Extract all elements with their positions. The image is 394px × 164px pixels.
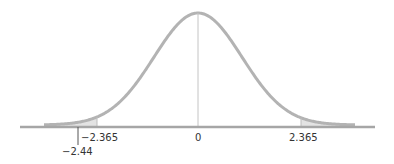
center-label: 0: [195, 132, 201, 143]
t-distribution-chart: −2.365 0 2.365 −2.44: [0, 0, 394, 164]
test-stat-label: −2.44: [62, 146, 93, 157]
density-curve: [44, 13, 355, 125]
left-critical-label: −2.365: [81, 132, 118, 143]
right-critical-label: 2.365: [289, 132, 318, 143]
